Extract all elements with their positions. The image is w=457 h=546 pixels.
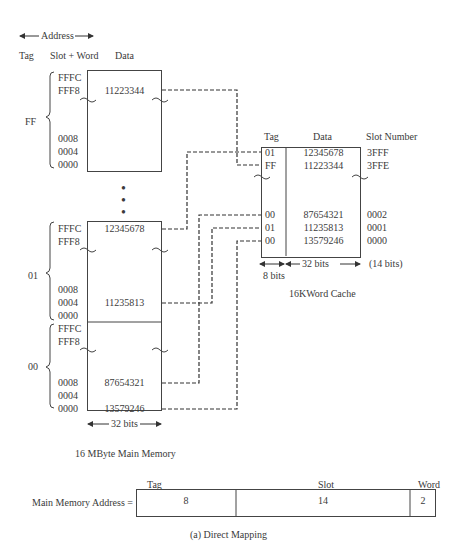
- tag-00: 00: [28, 361, 38, 373]
- cache-title: 16KWord Cache: [289, 288, 356, 300]
- mm-width-label: 32 bits: [111, 418, 138, 430]
- cache-col-data: Data: [313, 131, 332, 143]
- cache-slot: 3FFE: [367, 160, 389, 172]
- cache-data: 12345678: [286, 147, 361, 159]
- cache-tag: 01: [265, 222, 275, 234]
- addr-label: FFFC: [58, 72, 81, 84]
- cache-data: 11235813: [286, 222, 361, 234]
- cache-slot: 0000: [367, 235, 387, 247]
- tag-01: 01: [28, 270, 38, 282]
- addr-label: 0008: [58, 133, 78, 145]
- addr-label: FFFC: [58, 223, 81, 235]
- addr-label: 0004: [58, 390, 78, 402]
- cache-slot-width: (14 bits): [369, 258, 403, 270]
- addr-label: 0000: [58, 403, 78, 415]
- cache-col-tag: Tag: [264, 131, 279, 143]
- cache-data: 11223344: [286, 160, 361, 172]
- mm-data-value: 13579246: [87, 403, 162, 415]
- cache-slot: 0001: [367, 222, 387, 234]
- addr-label: FFF8: [58, 85, 80, 97]
- addr-field-word-bits: 2: [410, 495, 436, 507]
- mapping-connectors: [162, 90, 261, 409]
- ellipsis: •: [121, 207, 126, 219]
- tag-ff: FF: [25, 116, 36, 128]
- addr-label: 0008: [58, 284, 78, 296]
- addr-label: 0000: [58, 159, 78, 171]
- cache-data: 13579246: [286, 235, 361, 247]
- col-tag-label: Tag: [19, 50, 34, 62]
- addr-field-tag-bits: 8: [136, 495, 236, 507]
- cache-data-width: 32 bits: [302, 258, 329, 270]
- mm-data-value: 12345678: [87, 223, 162, 235]
- cache-tag: FF: [265, 160, 276, 172]
- cache-tag-width: 8 bits: [263, 270, 285, 282]
- addr-label: FFF8: [58, 336, 80, 348]
- cache-slot: 0002: [367, 209, 387, 221]
- addr-field-slot-bits: 14: [236, 495, 410, 507]
- col-slot-word-label: Slot + Word: [50, 50, 99, 62]
- cache-slot: 3FFF: [367, 147, 389, 159]
- mm-data-value: 11235813: [87, 297, 162, 309]
- addr-label: 0004: [58, 146, 78, 158]
- mm-title: 16 MByte Main Memory: [75, 448, 176, 460]
- address-label: Address: [41, 30, 74, 42]
- tag-braces: [46, 72, 54, 408]
- addr-label: FFFC: [58, 323, 81, 335]
- cache-tag: 00: [265, 209, 275, 221]
- figure-caption: (a) Direct Mapping: [0, 529, 457, 541]
- cache-col-slot: Slot Number: [366, 131, 417, 143]
- cache-tag: 01: [265, 147, 275, 159]
- col-data-label: Data: [115, 50, 134, 62]
- addr-format-label: Main Memory Address =: [32, 497, 133, 509]
- mm-data-value: 87654321: [87, 377, 162, 389]
- addr-label: 0004: [58, 297, 78, 309]
- cache-data: 87654321: [286, 209, 361, 221]
- addr-label: 0008: [58, 377, 78, 389]
- mm-data-value: 11223344: [87, 85, 162, 97]
- addr-label: FFF8: [58, 236, 80, 248]
- cache-tag: 00: [265, 235, 275, 247]
- addr-label: 0000: [58, 310, 78, 322]
